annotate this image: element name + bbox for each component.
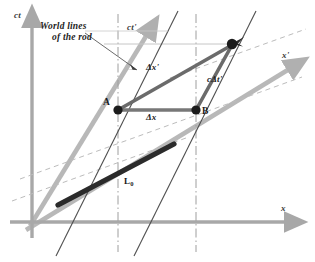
ct-prime-axis	[30, 33, 148, 226]
worldline-endpoint-left	[56, 11, 178, 256]
worldlines-caption-line1: World lines	[40, 21, 87, 31]
dashed-xprime-guides	[12, 29, 306, 201]
worldlines-caption-line2: of the rod	[40, 32, 92, 43]
measure-label-delta-x: Δx	[146, 112, 157, 122]
caption-leader-line	[85, 33, 137, 70]
worldlines-caption: World lines of the rod	[40, 21, 92, 43]
measure-label-delta-x-prime: Δx'	[146, 62, 159, 72]
worldline-endpoint-right	[134, 11, 256, 256]
axis-label-x: x	[281, 203, 286, 213]
axis-label-ct: ct	[14, 10, 21, 20]
rod-proper-length-label: L0	[124, 176, 134, 186]
measure-label-c-delta-t-prime: cΔt'	[207, 74, 222, 84]
event-dot-B	[191, 105, 200, 114]
event-label-A: A	[103, 97, 110, 108]
lab-frame-axes	[10, 24, 288, 238]
axis-label-ct-prime: ct'	[127, 22, 137, 32]
dashed-xprime-through-B	[20, 77, 302, 179]
event-label-B: B	[202, 106, 209, 117]
spacetime-diagram: ct x ct' x' World lines of the rod A B Δ…	[0, 0, 315, 262]
axis-label-x-prime: x'	[282, 50, 289, 60]
event-dot-A	[113, 105, 122, 114]
event-dot-C	[227, 39, 237, 49]
rod-proper-length-subscript: 0	[130, 180, 133, 187]
